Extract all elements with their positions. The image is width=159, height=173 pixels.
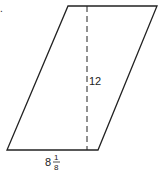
problem-marker: . (0, 3, 3, 14)
base-label-whole: 8 (45, 156, 51, 168)
base-label-numerator: 1 (54, 153, 59, 162)
parallelogram-shape (7, 6, 157, 150)
parallelogram-diagram: . 12 8 1 8 (0, 0, 159, 173)
height-label: 12 (89, 75, 101, 87)
base-label-denominator: 8 (54, 163, 59, 172)
